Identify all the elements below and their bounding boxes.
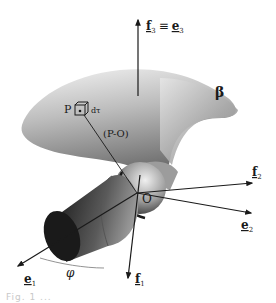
- label-body-beta: β: [215, 84, 224, 100]
- label-f1: f1: [135, 272, 145, 288]
- label-e1: e1: [24, 272, 36, 288]
- label-origin-o: O: [142, 192, 152, 206]
- diagram-canvas: f3≡e3 f2 e2 e1 f1 φ O P dτ (P-O) β: [0, 0, 276, 303]
- label-f3-e3: f3≡e3: [146, 19, 184, 35]
- label-f2: f2: [252, 165, 262, 181]
- label-position-vector: (P-O): [103, 128, 129, 139]
- figure-caption: Fig. 1 ...: [6, 292, 52, 302]
- label-d-tau: dτ: [91, 106, 101, 115]
- cylinder: [37, 175, 138, 266]
- label-phi: φ: [66, 266, 75, 280]
- label-e2: e2: [241, 218, 253, 234]
- label-point-p: P: [64, 103, 72, 116]
